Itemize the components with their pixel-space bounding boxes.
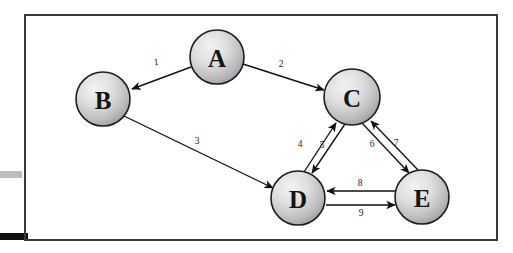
edge-3-b-to-d xyxy=(124,116,273,188)
node-a[interactable]: A xyxy=(190,30,244,84)
edge-label-3: 3 xyxy=(195,136,200,146)
edge-label-6: 6 xyxy=(370,139,375,149)
edge-label-2: 2 xyxy=(279,59,284,69)
edge-label-4: 4 xyxy=(298,139,303,149)
node-e-label: E xyxy=(414,185,431,212)
node-a-label: A xyxy=(208,45,226,72)
node-c-label: C xyxy=(343,85,361,112)
edge-label-7: 7 xyxy=(394,138,399,148)
edge-2-a-to-c xyxy=(243,64,324,90)
black-margin-mark xyxy=(0,233,28,240)
edge-label-8: 8 xyxy=(358,178,363,188)
node-b-label: B xyxy=(95,87,112,114)
edge-label-1: 1 xyxy=(153,57,159,67)
node-d-label: D xyxy=(289,186,307,213)
node-b[interactable]: B xyxy=(76,72,130,126)
node-c[interactable]: C xyxy=(324,69,380,125)
figure-page: A B C D E 1 2 3 4 5 6 7 8 9 xyxy=(0,0,513,253)
graph-canvas: A B C D E 1 2 3 4 5 6 7 8 9 xyxy=(0,0,513,253)
edge-label-9: 9 xyxy=(359,208,364,218)
node-d[interactable]: D xyxy=(271,171,325,225)
gray-margin-mark xyxy=(0,171,22,178)
edge-label-5: 5 xyxy=(320,140,325,150)
edge-5-c-to-d xyxy=(312,124,345,173)
edge-1-a-to-b xyxy=(132,67,191,89)
node-e[interactable]: E xyxy=(395,170,449,224)
